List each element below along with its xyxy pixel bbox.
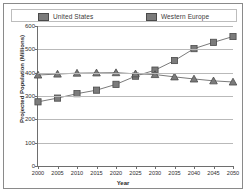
gridline <box>38 96 233 97</box>
plot-area: 0100200300400500600200020052010201520202… <box>37 26 233 167</box>
gridline <box>38 73 233 74</box>
series-line <box>38 37 233 102</box>
x-tick-label: 2030 <box>149 170 161 176</box>
x-tick-label: 2035 <box>168 170 180 176</box>
data-point-marker[interactable] <box>113 81 119 87</box>
legend-label-united-states: United States <box>53 13 93 21</box>
x-tick-mark <box>38 166 39 169</box>
data-point-marker[interactable] <box>171 57 177 63</box>
x-tick-mark <box>194 166 195 169</box>
x-tick-mark <box>58 166 59 169</box>
legend-item-western-europe[interactable]: Western Europe <box>146 11 209 22</box>
y-tick-label: 0 <box>32 163 35 169</box>
x-tick-label: 2000 <box>32 170 44 176</box>
legend-swatch-united-states <box>38 13 49 21</box>
x-tick-mark <box>155 166 156 169</box>
x-tick-label: 2050 <box>227 170 239 176</box>
y-tick-label: 600 <box>25 23 35 29</box>
x-axis-title: Year <box>4 180 242 186</box>
y-tick-mark <box>35 96 38 97</box>
x-tick-label: 2040 <box>188 170 200 176</box>
y-tick-mark <box>35 26 38 27</box>
x-tick-mark <box>97 166 98 169</box>
x-tick-mark <box>233 166 234 169</box>
data-point-marker[interactable] <box>230 33 236 39</box>
y-tick-label: 500 <box>25 46 35 52</box>
gridline <box>38 119 233 120</box>
x-tick-mark <box>136 166 137 169</box>
y-tick-label: 100 <box>25 140 35 146</box>
x-tick-mark <box>214 166 215 169</box>
x-tick-label: 2015 <box>90 170 102 176</box>
legend-swatch-western-europe <box>146 13 157 21</box>
gridline <box>38 49 233 50</box>
x-tick-label: 2045 <box>207 170 219 176</box>
x-tick-mark <box>116 166 117 169</box>
x-tick-label: 2025 <box>129 170 141 176</box>
y-tick-label: 300 <box>25 93 35 99</box>
x-tick-mark <box>77 166 78 169</box>
x-tick-label: 2005 <box>51 170 63 176</box>
legend-item-united-states[interactable]: United States <box>38 11 93 22</box>
x-tick-mark <box>175 166 176 169</box>
data-point-marker[interactable] <box>210 39 216 45</box>
y-tick-mark <box>35 119 38 120</box>
y-tick-mark <box>35 49 38 50</box>
gridline <box>38 26 233 27</box>
y-tick-label: 200 <box>25 116 35 122</box>
gridline <box>38 143 233 144</box>
y-tick-mark <box>35 73 38 74</box>
x-tick-label: 2010 <box>71 170 83 176</box>
y-tick-label: 400 <box>25 70 35 76</box>
x-tick-label: 2020 <box>110 170 122 176</box>
chart-legend: United States Western Europe <box>11 9 237 22</box>
chart-frame: United States Western Europe Projected P… <box>3 3 243 189</box>
data-point-marker[interactable] <box>35 99 41 105</box>
data-point-marker[interactable] <box>93 87 99 93</box>
y-tick-mark <box>35 143 38 144</box>
legend-label-western-europe: Western Europe <box>161 13 209 21</box>
